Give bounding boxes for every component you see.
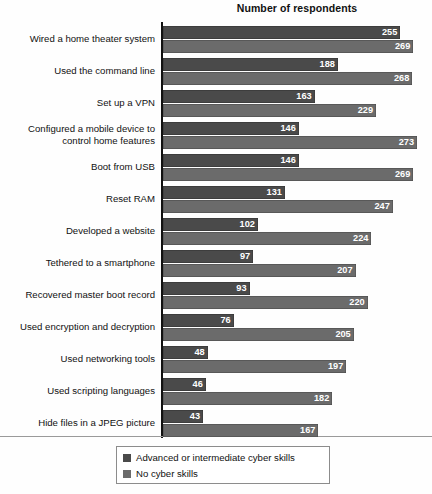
- bar-advanced[interactable]: 43: [163, 410, 203, 423]
- bar-advanced[interactable]: 48: [163, 346, 208, 359]
- bar-row: Reset RAM131247: [0, 186, 432, 218]
- bar-advanced[interactable]: 131: [163, 186, 285, 199]
- bar-value-label: 146: [280, 154, 295, 167]
- bar-row: Used the command line188268: [0, 58, 432, 90]
- bar-row: Wired a home theater system255269: [0, 26, 432, 58]
- bar-advanced[interactable]: 163: [163, 90, 315, 103]
- category-label: Used networking tools: [3, 353, 155, 365]
- legend-label-no-cyber-skills: No cyber skills: [136, 468, 198, 480]
- bar-no-cyber-skills[interactable]: 205: [163, 328, 354, 341]
- category-label: Reset RAM: [3, 193, 155, 205]
- bar-advanced[interactable]: 255: [163, 26, 400, 39]
- bar-row: Set up a VPN163229: [0, 90, 432, 122]
- bar-no-cyber-skills[interactable]: 197: [163, 360, 346, 373]
- category-label: Recovered master boot record: [3, 289, 155, 301]
- bar-no-cyber-skills[interactable]: 220: [163, 296, 368, 309]
- legend-swatch-no-cyber-skills-icon: [123, 470, 131, 478]
- category-label: Used the command line: [3, 65, 155, 77]
- bar-advanced[interactable]: 146: [163, 122, 299, 135]
- bar-value-label: 224: [353, 232, 368, 245]
- bar-no-cyber-skills[interactable]: 182: [163, 392, 332, 405]
- legend-swatch-advanced-icon: [123, 454, 131, 462]
- bar-no-cyber-skills[interactable]: 268: [163, 72, 412, 85]
- bar-value-label: 182: [314, 392, 329, 405]
- bar-value-label: 205: [335, 328, 350, 341]
- bar-value-label: 229: [358, 104, 373, 117]
- category-label: Tethered to a smartphone: [3, 257, 155, 269]
- plot-area: Wired a home theater system255269Used th…: [0, 22, 432, 438]
- category-label: Wired a home theater system: [3, 33, 155, 45]
- bar-no-cyber-skills[interactable]: 167: [163, 424, 318, 437]
- category-label: Set up a VPN: [3, 97, 155, 109]
- bar-value-label: 131: [267, 186, 282, 199]
- chart-legend: Advanced or intermediate cyber skills No…: [116, 446, 330, 484]
- bar-no-cyber-skills[interactable]: 269: [163, 40, 413, 53]
- bar-advanced[interactable]: 97: [163, 250, 253, 263]
- bar-value-label: 48: [194, 346, 204, 359]
- bar-value-label: 43: [190, 410, 200, 423]
- category-label: Boot from USB: [3, 161, 155, 173]
- bar-value-label: 46: [193, 378, 203, 391]
- bar-advanced[interactable]: 146: [163, 154, 299, 167]
- category-label: Developed a website: [3, 225, 155, 237]
- bar-no-cyber-skills[interactable]: 273: [163, 136, 417, 149]
- category-label: Hide files in a JPEG picture: [3, 417, 155, 429]
- bar-no-cyber-skills[interactable]: 224: [163, 232, 371, 245]
- bar-no-cyber-skills[interactable]: 269: [163, 168, 413, 181]
- legend-item-no-cyber-skills[interactable]: No cyber skills: [123, 467, 323, 481]
- bar-advanced[interactable]: 102: [163, 218, 258, 231]
- bar-value-label: 167: [300, 424, 315, 437]
- bar-value-label: 97: [240, 250, 250, 263]
- bar-value-label: 146: [280, 122, 295, 135]
- bar-advanced[interactable]: 93: [163, 282, 250, 295]
- bar-row: Boot from USB146269: [0, 154, 432, 186]
- bar-row: Configured a mobile device to control ho…: [0, 122, 432, 154]
- bar-value-label: 163: [296, 90, 311, 103]
- chart-title: Number of respondents: [163, 2, 431, 14]
- bar-row: Developed a website102224: [0, 218, 432, 250]
- bar-value-label: 269: [395, 168, 410, 181]
- bar-row: Used encryption and decryption76205: [0, 314, 432, 346]
- bar-advanced[interactable]: 76: [163, 314, 234, 327]
- bar-value-label: 93: [236, 282, 246, 295]
- bar-value-label: 273: [399, 136, 414, 149]
- bar-row: Used scripting languages46182: [0, 378, 432, 410]
- bar-value-label: 220: [349, 296, 364, 309]
- category-label: Used scripting languages: [3, 385, 155, 397]
- bar-advanced[interactable]: 46: [163, 378, 206, 391]
- category-label: Used encryption and decryption: [3, 321, 155, 333]
- bar-value-label: 76: [220, 314, 230, 327]
- bar-row: Hide files in a JPEG picture43167: [0, 410, 432, 442]
- bar-value-label: 188: [320, 58, 335, 71]
- bar-value-label: 197: [328, 360, 343, 373]
- bar-no-cyber-skills[interactable]: 207: [163, 264, 356, 277]
- bar-row: Tethered to a smartphone97207: [0, 250, 432, 282]
- bar-no-cyber-skills[interactable]: 229: [163, 104, 376, 117]
- bar-value-label: 255: [382, 26, 397, 39]
- category-label: Configured a mobile device to control ho…: [3, 123, 155, 146]
- bar-row: Recovered master boot record93220: [0, 282, 432, 314]
- bar-value-label: 268: [394, 72, 409, 85]
- legend-label-advanced: Advanced or intermediate cyber skills: [136, 452, 295, 464]
- bar-row: Used networking tools48197: [0, 346, 432, 378]
- bar-value-label: 102: [240, 218, 255, 231]
- bar-value-label: 207: [337, 264, 352, 277]
- bar-chart: Number of respondents Wired a home theat…: [0, 0, 432, 494]
- bar-advanced[interactable]: 188: [163, 58, 338, 71]
- bar-value-label: 269: [395, 40, 410, 53]
- bar-value-label: 247: [374, 200, 389, 213]
- bar-no-cyber-skills[interactable]: 247: [163, 200, 393, 213]
- legend-item-advanced[interactable]: Advanced or intermediate cyber skills: [123, 451, 323, 465]
